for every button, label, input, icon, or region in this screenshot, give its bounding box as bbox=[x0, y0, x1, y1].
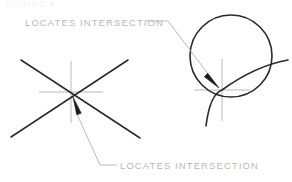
right-circle-and-arc bbox=[190, 15, 288, 126]
bottom-leader-line bbox=[76, 112, 117, 165]
label-locates-intersection-top: LOCATES INTERSECTION bbox=[25, 17, 164, 28]
figure-canvas: FIGURE 4 bbox=[0, 0, 292, 182]
left-arrowhead-icon bbox=[73, 97, 81, 115]
label-locates-intersection-bottom: LOCATES INTERSECTION bbox=[120, 160, 259, 171]
left-line-a bbox=[11, 60, 128, 137]
left-line-b bbox=[21, 60, 140, 138]
right-arrowhead-icon bbox=[204, 73, 219, 88]
left-crossing-lines bbox=[11, 60, 140, 138]
leader-lines bbox=[76, 21, 218, 165]
